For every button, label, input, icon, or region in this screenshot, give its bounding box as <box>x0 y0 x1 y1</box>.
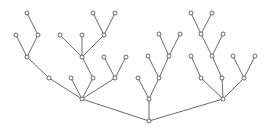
tree-node <box>25 55 29 59</box>
tree-edge <box>82 99 149 121</box>
tree-edge <box>149 99 223 121</box>
tree-node <box>113 11 117 15</box>
tree-edge <box>159 56 169 78</box>
tree-node <box>147 119 151 123</box>
tree-edge <box>82 57 93 78</box>
tree-node <box>91 11 95 15</box>
tree-edge <box>148 56 159 78</box>
tree-node <box>167 54 171 58</box>
tree-node <box>157 32 161 36</box>
tree-edge <box>191 13 201 34</box>
tree-node <box>210 11 214 15</box>
tree-node <box>146 54 150 58</box>
tree-edge <box>27 13 38 35</box>
tree-edge <box>223 78 244 99</box>
tree-node <box>124 55 128 59</box>
tree-edge <box>104 13 115 35</box>
tree-edge <box>16 35 27 57</box>
tree-node <box>102 33 106 37</box>
tree-node <box>221 32 225 36</box>
tree-edge <box>93 13 104 35</box>
tree-edge <box>27 57 49 78</box>
tree-edge <box>222 78 223 99</box>
tree-node <box>14 33 18 37</box>
tree-node <box>102 55 106 59</box>
tree-node <box>58 33 62 37</box>
tree-edge <box>244 56 255 78</box>
tree-edge <box>159 34 169 56</box>
tree-node <box>36 33 40 37</box>
edges-group <box>16 13 255 121</box>
tree-node <box>80 55 84 59</box>
tree-edge <box>115 57 126 78</box>
tree-node <box>199 32 203 36</box>
tree-node <box>47 76 51 80</box>
tree-node <box>80 97 84 101</box>
tree-node <box>242 76 246 80</box>
tree-node <box>220 76 224 80</box>
tree-node <box>25 11 29 15</box>
tree-diagram <box>0 0 269 132</box>
tree-node <box>189 11 193 15</box>
tree-svg <box>0 0 269 132</box>
tree-node <box>91 76 95 80</box>
tree-node <box>189 54 193 58</box>
tree-node <box>210 54 214 58</box>
tree-edge <box>233 56 244 78</box>
tree-edge <box>201 13 212 34</box>
tree-node <box>253 54 257 58</box>
tree-node <box>136 76 140 80</box>
tree-edge <box>60 35 82 57</box>
tree-edge <box>169 34 180 56</box>
tree-node <box>221 97 225 101</box>
tree-node <box>147 97 151 101</box>
tree-edge <box>104 57 115 78</box>
tree-edge <box>82 35 104 57</box>
tree-node <box>231 54 235 58</box>
tree-node <box>178 32 182 36</box>
tree-edge <box>82 78 115 99</box>
tree-node <box>69 76 73 80</box>
tree-edge <box>49 78 82 99</box>
tree-edge <box>201 34 212 56</box>
tree-node <box>80 33 84 37</box>
tree-edge <box>201 78 223 99</box>
tree-node <box>113 76 117 80</box>
tree-edge <box>212 56 222 78</box>
tree-edge <box>138 78 149 99</box>
tree-edge <box>149 78 159 99</box>
tree-node <box>157 76 161 80</box>
nodes-group <box>14 11 257 123</box>
tree-edge <box>27 35 38 57</box>
tree-edge <box>191 56 201 78</box>
tree-edge <box>212 34 223 56</box>
tree-node <box>199 76 203 80</box>
